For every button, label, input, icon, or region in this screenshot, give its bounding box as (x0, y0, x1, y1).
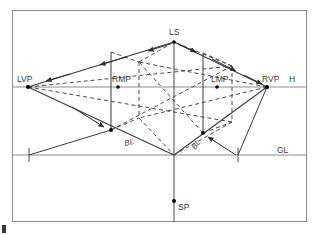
edge-lvp-to-front-bottom (28, 87, 174, 155)
label-h: H (289, 74, 295, 84)
label-rvp: RVP (262, 74, 280, 84)
label-ls: LS (169, 27, 180, 37)
point-lmp (215, 85, 219, 89)
dashed-bottom-face-center-left (139, 118, 174, 155)
dashed-lvp-to-hidden-bottom-right (28, 87, 232, 122)
arrow-lower-right-in (208, 137, 236, 155)
arrow-lower-left-ray (29, 130, 111, 155)
point-sp (172, 199, 176, 203)
arrow-upper-left-outer (100, 57, 126, 65)
arrow-upper-right-inner (244, 75, 262, 84)
point-rmp (116, 85, 120, 89)
point-ls (172, 40, 176, 44)
arrow-lower-left-up (72, 107, 104, 127)
label-rmp: RMP (112, 74, 131, 84)
arrow-upper-right-top (178, 44, 196, 52)
point-lvp (26, 85, 30, 89)
diagram-canvas: LVP RVP H RMP LMP LS SP GL BL BL (0, 0, 320, 235)
dashed-top-face-center-left (139, 42, 174, 62)
label-lmp: LMP (211, 74, 229, 84)
arrow-upper-left-inner (46, 74, 70, 81)
label-lvp: LVP (17, 74, 33, 84)
label-gl: GL (277, 145, 289, 155)
label-sp: SP (178, 202, 190, 212)
label-bl-left: BL (123, 137, 135, 148)
point-box-left-bottom (109, 128, 113, 132)
point-box-right-bottom (201, 131, 205, 135)
arrow-upper-left-top (148, 44, 170, 51)
diagram-border (13, 11, 307, 222)
corner-mark (2, 225, 6, 233)
arrow-upper-right-mid (212, 59, 236, 71)
perspective-diagram-svg: LVP RVP H RMP LMP LS SP GL BL BL (0, 0, 320, 235)
point-rvp (265, 85, 269, 89)
